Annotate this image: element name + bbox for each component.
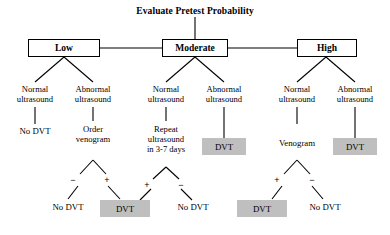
- final-outcome-1: No DVT: [33, 202, 103, 212]
- sign-repeat-ultrasound-positive: +: [140, 181, 154, 190]
- connector-lines: [0, 0, 390, 235]
- action-repeat-ultrasound-line2: ultrasound: [131, 134, 201, 144]
- action-venogram-high-label: Venogram: [279, 138, 315, 148]
- sign-venogram-low-positive: +: [100, 176, 114, 185]
- action-order-venogram-line2: venogram: [58, 134, 128, 144]
- sign-venogram-low-negative: −: [66, 176, 80, 185]
- final-outcome-2: DVT: [100, 200, 150, 217]
- ultrasound-result-moderate-abnormal-line1: Abnormal: [189, 84, 259, 94]
- action-low-normal-no-dvt-label: No DVT: [19, 126, 50, 136]
- sign-repeat-ultrasound-negative: −: [174, 181, 188, 190]
- tier-box-moderate[interactable]: Moderate: [162, 39, 228, 57]
- action-order-venogram-line1: Order: [58, 124, 128, 134]
- action-repeat-ultrasound-line1: Repeat: [131, 124, 201, 134]
- ultrasound-result-moderate-abnormal: Abnormal ultrasound: [189, 84, 259, 104]
- action-repeat-ultrasound: Repeat ultrasound in 3-7 days: [131, 124, 201, 154]
- final-outcome-3-label: No DVT: [177, 202, 208, 212]
- ultrasound-result-moderate-abnormal-line2: ultrasound: [189, 94, 259, 104]
- final-outcome-4: DVT: [237, 200, 287, 217]
- final-outcome-3: No DVT: [158, 202, 228, 212]
- outcome-moderate-abnormal-dvt-label: DVT: [215, 142, 233, 152]
- ultrasound-result-high-abnormal-line1: Abnormal: [320, 84, 390, 94]
- outcome-moderate-abnormal-dvt: DVT: [202, 138, 246, 155]
- tier-box-high-label: High: [317, 43, 337, 53]
- final-outcome-2-label: DVT: [116, 204, 134, 214]
- decision-tree-diagram: Evaluate Pretest Probability Low Moderat…: [0, 0, 390, 235]
- page-title: Evaluate Pretest Probability: [0, 6, 390, 16]
- final-outcome-1-label: No DVT: [52, 202, 83, 212]
- ultrasound-result-low-abnormal: Abnormal ultrasound: [58, 84, 128, 104]
- tier-box-low-label: Low: [55, 43, 73, 53]
- sign-venogram-high-positive: +: [270, 176, 284, 185]
- final-outcome-4-label: DVT: [253, 204, 271, 214]
- ultrasound-result-high-abnormal: Abnormal ultrasound: [320, 84, 390, 104]
- outcome-high-abnormal-dvt-label: DVT: [346, 142, 364, 152]
- tier-box-low[interactable]: Low: [28, 39, 100, 57]
- final-outcome-5: No DVT: [290, 202, 360, 212]
- action-order-venogram: Order venogram: [58, 124, 128, 144]
- sign-venogram-high-negative: −: [305, 176, 319, 185]
- ultrasound-result-high-abnormal-line2: ultrasound: [320, 94, 390, 104]
- ultrasound-result-low-abnormal-line2: ultrasound: [58, 94, 128, 104]
- action-venogram-high: Venogram: [262, 138, 332, 148]
- action-repeat-ultrasound-line3: in 3-7 days: [131, 144, 201, 154]
- final-outcome-5-label: No DVT: [309, 202, 340, 212]
- outcome-high-abnormal-dvt: DVT: [333, 138, 377, 155]
- ultrasound-result-low-abnormal-line1: Abnormal: [58, 84, 128, 94]
- tier-box-high[interactable]: High: [297, 39, 357, 57]
- tier-box-moderate-label: Moderate: [175, 43, 215, 53]
